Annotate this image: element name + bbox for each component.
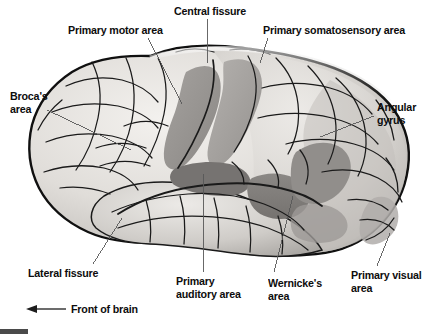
label-primary-auditory-area-line1: Primary [176, 275, 215, 288]
leader-line-primary-motor-area [148, 38, 182, 104]
leader-line-lateral-fissure [93, 218, 122, 264]
label-primary-auditory-area-line2: auditory area [176, 288, 241, 301]
label-brocas-area-line2: area [10, 103, 31, 116]
label-primary-somatosensory-area: Primary somatosensory area [263, 24, 405, 37]
label-brocas-area-line1: Broca's [10, 90, 48, 103]
leader-line-primary-somatosensory-area [260, 38, 268, 63]
label-front-of-brain: Front of brain [71, 303, 138, 316]
page-edge-bar [0, 329, 28, 334]
label-lateral-fissure: Lateral fissure [28, 267, 98, 280]
brain-diagram-figure: Primary motor area Central fissure Prima… [0, 0, 427, 336]
leader-line-brocas-area [47, 110, 131, 150]
label-angular-gyrus-line1: Angular [377, 101, 416, 114]
leader-line-angular-gyrus [320, 116, 374, 137]
leader-line-primary-visual-area [377, 233, 390, 266]
label-primary-visual-area-line1: Primary visual [351, 269, 422, 282]
label-primary-visual-area-line2: area [351, 282, 372, 295]
label-wernickes-area-line2: area [268, 290, 289, 303]
label-central-fissure: Central fissure [174, 5, 246, 18]
front-of-brain-arrow [26, 305, 66, 313]
label-primary-motor-area: Primary motor area [68, 24, 163, 37]
leader-line-wernickes-area [274, 196, 293, 272]
label-angular-gyrus-line2: gyrus [377, 114, 405, 127]
label-wernickes-area-line1: Wernicke's [268, 277, 322, 290]
